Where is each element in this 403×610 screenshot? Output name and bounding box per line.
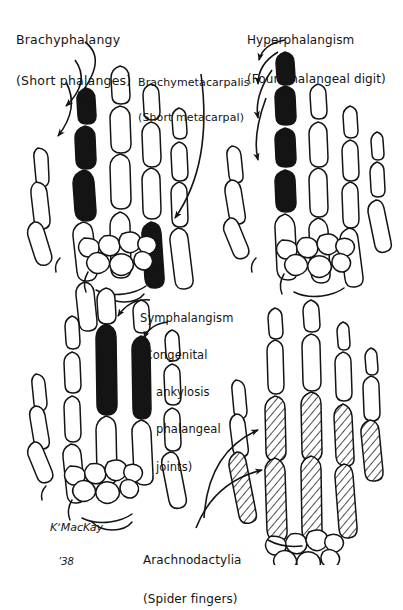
label-symphalangism-line4: phalangeal: [140, 423, 233, 435]
label-hyperphalangism-line1: Hyperphalangism: [247, 34, 386, 47]
signature-artist-name: KʼMacKay: [50, 522, 103, 534]
label-brachyphalangy-line1: Brachyphalangy: [16, 33, 131, 47]
label-symphalangism-line3: ankylosis: [140, 386, 233, 398]
label-brachyphalangy: Brachyphalangy (Short phalanges): [16, 6, 131, 114]
label-hyperphalangism: Hyperphalangism (Four phalangeal digit): [247, 8, 386, 112]
label-arachnodactylia-line2: (Spider fingers): [143, 593, 242, 606]
label-symphalangism-line2: (Congenital: [140, 349, 233, 361]
artist-signature: KʼMacKay ’38: [50, 498, 103, 592]
label-arachnodactylia: Arachnodactylia (Spider fingers): [143, 528, 242, 610]
label-brachymetacarpalis-line1: Brachymetacarpalis: [138, 77, 250, 89]
label-symphalangism-line5: joints): [140, 461, 233, 473]
label-hyperphalangism-line2: (Four phalangeal digit): [247, 73, 386, 86]
label-symphalangism-line1: Symphalangism: [140, 312, 233, 324]
label-brachymetacarpalis: Brachymetacarpalis (Short metacarpal): [138, 53, 250, 148]
signature-year: ’38: [50, 557, 103, 568]
label-arachnodactylia-line1: Arachnodactylia: [143, 554, 242, 567]
label-symphalangism: Symphalangism (Congenital ankylosis phal…: [140, 287, 233, 498]
label-brachymetacarpalis-line2: (Short metacarpal): [138, 112, 250, 124]
label-brachyphalangy-line2: (Short phalanges): [16, 74, 131, 88]
